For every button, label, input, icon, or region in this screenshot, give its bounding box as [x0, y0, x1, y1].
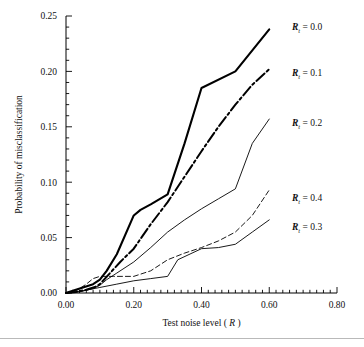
x-tick-label: 0.00 — [58, 300, 75, 310]
y-tick-label: 0.25 — [40, 11, 57, 21]
series-label-3: Rt = 0.4 — [291, 193, 322, 204]
x-tick-label: 0.80 — [329, 300, 346, 310]
series-label-text-3: Rt = 0.4 — [291, 193, 322, 204]
series-label-1: Rt = 0.1 — [291, 68, 322, 79]
y-tick-label: 0.15 — [40, 122, 57, 132]
x-tick-label: 0.40 — [193, 300, 210, 310]
y-tick-label: 0.05 — [40, 233, 57, 243]
series-label-2: Rt = 0.2 — [291, 118, 322, 129]
y-tick-label: 0.20 — [40, 67, 57, 77]
line-chart: 0.000.200.400.600.80 0.000.050.100.150.2… — [0, 0, 364, 347]
series-label-text-0: Rt = 0.0 — [291, 22, 322, 33]
series-label-0: Rt = 0.0 — [291, 22, 322, 33]
figure-container: 0.000.200.400.600.80 0.000.050.100.150.2… — [0, 0, 364, 347]
x-axis-title: Test noise level ( R ) — [162, 318, 240, 329]
series-label-text-4: Rt = 0.3 — [291, 222, 322, 233]
y-axis-title: Probability of misclassification — [14, 95, 24, 214]
series-label-4: Rt = 0.3 — [291, 222, 322, 233]
y-tick-label: 0.10 — [40, 178, 57, 188]
y-tick-label: 0.00 — [40, 288, 57, 298]
series-label-text-1: Rt = 0.1 — [291, 68, 322, 79]
series-label-text-2: Rt = 0.2 — [291, 118, 322, 129]
x-tick-label: 0.20 — [125, 300, 142, 310]
x-tick-label: 0.60 — [261, 300, 278, 310]
footer-rule — [0, 338, 364, 339]
